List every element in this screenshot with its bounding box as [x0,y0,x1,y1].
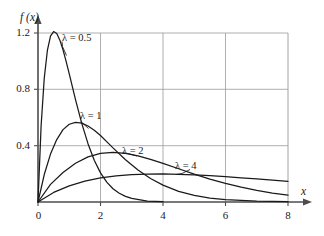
x-tick-label-0: 0 [34,210,43,221]
x-axis-arrow-icon [303,198,312,205]
gamma-density-figure: f (x) x 1.2 0.8 0.4 0 2 4 6 8 λ = 0.5 λ … [0,0,324,236]
x-axis-label: x [301,186,306,198]
curve-label-lambda-2: λ = 2 [122,146,144,157]
curve-label-lambda-0-5: λ = 0.5 [62,33,91,44]
plot-area [0,0,324,236]
x-tick-label-4: 4 [159,210,168,221]
y-axis-label: f (x) [20,12,39,24]
x-tick-label-6: 6 [221,210,230,221]
y-tick-label-0-8: 0.8 [8,83,30,94]
x-tick-label-8: 8 [284,210,293,221]
y-tick-label-1-2: 1.2 [8,27,30,38]
y-axis [34,15,41,202]
curve-label-lambda-4: λ = 4 [175,161,197,172]
x-tick-label-2: 2 [96,210,105,221]
vertical-gridlines [101,33,226,202]
y-tick-label-0-4: 0.4 [8,140,30,151]
curve-label-lambda-1: λ = 1 [80,111,102,122]
